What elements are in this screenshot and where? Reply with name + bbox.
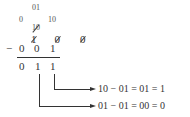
- connector-col3-vertical: [54, 74, 55, 90]
- borrow-digit-3: 10: [48, 16, 56, 24]
- borrow-digit-1: 0: [19, 16, 23, 24]
- result-digit-2: 1: [35, 61, 41, 72]
- explanation-2: 01 − 01 = 00 = 0: [98, 101, 165, 111]
- subtrahend-digit-3: 1: [50, 43, 56, 54]
- sum-rule: [17, 57, 60, 58]
- borrow-top: 01: [32, 4, 40, 12]
- arrow-icon: [90, 87, 96, 91]
- arrow-icon: [90, 104, 96, 108]
- minuend-digit-3: 0: [80, 33, 86, 45]
- connector-col3-horizontal: [54, 89, 92, 90]
- result-digit-1: 0: [19, 61, 25, 72]
- subtrahend-digit-2: 0: [34, 43, 40, 54]
- subtrahend-digit-1: 0: [19, 43, 25, 54]
- subtraction-diagram: 01 0 10 10 1 0 0 − 0 0 1 0 1 1 10 − 01 =…: [0, 0, 190, 18]
- explanation-1: 10 − 01 = 01 = 1: [98, 84, 165, 94]
- result-digit-3: 1: [50, 61, 56, 72]
- connector-col2-vertical: [39, 74, 40, 107]
- borrow-digit-2: 10: [32, 23, 40, 32]
- connector-col2-horizontal: [39, 106, 92, 107]
- minus-sign: −: [6, 43, 12, 54]
